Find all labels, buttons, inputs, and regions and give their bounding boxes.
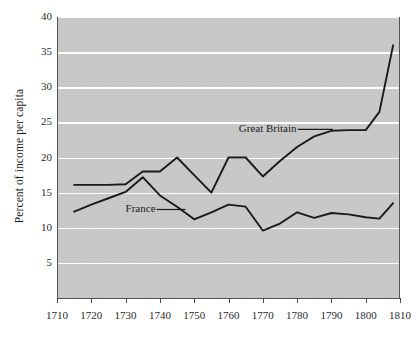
great-britain-label: Great Britain <box>239 122 297 134</box>
y-tick-label: 10 <box>28 222 52 233</box>
x-tick-mark <box>57 298 58 303</box>
y-tick-label: 25 <box>28 116 52 127</box>
y-tick-label: 40 <box>28 11 52 22</box>
x-tick-mark <box>331 298 332 303</box>
x-tick-mark <box>263 298 264 303</box>
series-line-great-britain <box>74 45 393 193</box>
france-label: France <box>126 202 156 214</box>
chart-root: Percent of income per capita 51015202530… <box>0 0 419 342</box>
x-tick-mark <box>126 298 127 303</box>
x-tick-mark <box>160 298 161 303</box>
y-axis-tick-labels: 510152025303540 <box>26 0 52 342</box>
plot-right-border <box>399 17 400 298</box>
y-tick-label: 30 <box>28 81 52 92</box>
y-tick-label: 5 <box>28 257 52 268</box>
x-tick-mark <box>297 298 298 303</box>
x-tick-label: 1810 <box>378 310 419 321</box>
y-tick-label: 35 <box>28 46 52 57</box>
y-axis-line <box>57 17 58 298</box>
y-tick-label: 20 <box>28 152 52 163</box>
x-tick-mark <box>366 298 367 303</box>
x-tick-mark <box>91 298 92 303</box>
x-tick-mark <box>194 298 195 303</box>
y-tick-label: 15 <box>28 187 52 198</box>
plot-area <box>57 17 400 298</box>
y-axis-title: Percent of income per capita <box>13 41 25 271</box>
x-tick-mark <box>229 298 230 303</box>
x-tick-mark <box>400 298 401 303</box>
series-layer <box>57 17 400 298</box>
